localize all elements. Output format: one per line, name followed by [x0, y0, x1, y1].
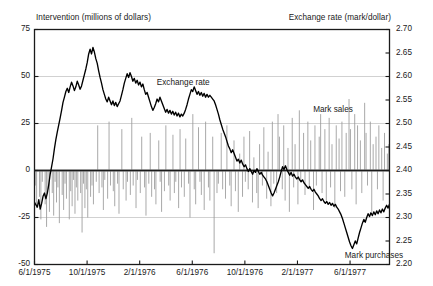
- intervention-bars: [35, 99, 389, 253]
- y-tick-label-right: 2.50: [396, 118, 412, 127]
- y-tick-label-right: 2.20: [396, 259, 412, 268]
- y-tick-label-left: 25: [4, 118, 30, 127]
- chart-annotation: Mark purchases: [345, 251, 403, 260]
- right-axis-title: Exchange rate (mark/dollar): [289, 13, 391, 22]
- y-tick-label-right: 2.40: [396, 165, 412, 174]
- y-tick-label-right: 2.35: [396, 189, 412, 198]
- x-tick-label: 2/1/1976: [110, 268, 170, 277]
- x-tick-label: 6/1/1975: [5, 268, 65, 277]
- x-tick-label: 2/1/1977: [267, 268, 327, 277]
- y-tick-label-right: 2.30: [396, 212, 412, 221]
- left-axis-title: Intervention (millions of dollars): [36, 13, 151, 22]
- y-tick-label-left: 0: [4, 165, 30, 174]
- y-tick-label-right: 2.45: [396, 142, 412, 151]
- y-tick-label-left: -50: [4, 259, 30, 268]
- x-tick-label: 10/1/1976: [215, 268, 275, 277]
- y-tick-label-left: -25: [4, 212, 30, 221]
- x-tick-label: 6/1/1977: [320, 268, 380, 277]
- chart-figure: Intervention (millions of dollars) Excha…: [0, 0, 433, 286]
- chart-annotation: Exchange rate: [157, 78, 210, 87]
- y-tick-label-right: 2.70: [396, 24, 412, 33]
- y-tick-label-right: 2.65: [396, 48, 412, 57]
- y-tick-label-right: 2.60: [396, 71, 412, 80]
- x-tick-label: 10/1/1975: [57, 268, 117, 277]
- y-tick-label-right: 2.25: [396, 236, 412, 245]
- y-tick-label-left: 50: [4, 71, 30, 80]
- y-tick-label-right: 2.55: [396, 95, 412, 104]
- chart-annotation: Mark sales: [313, 105, 353, 114]
- x-tick-label: 6/1/1976: [162, 268, 222, 277]
- y-tick-label-left: 75: [4, 24, 30, 33]
- plot-area: [0, 0, 433, 286]
